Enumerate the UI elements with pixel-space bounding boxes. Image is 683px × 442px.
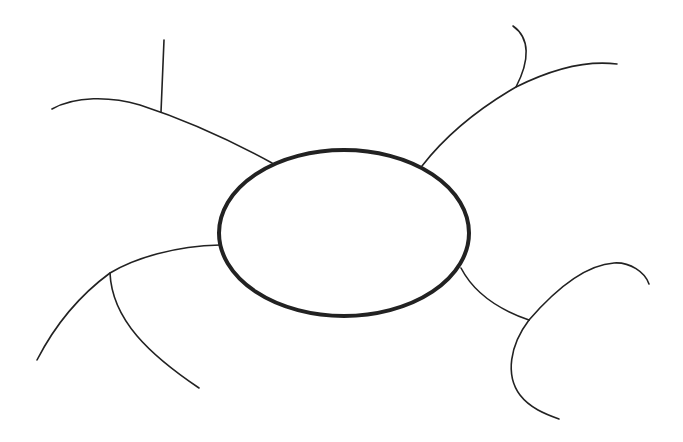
central-topic-node[interactable] bbox=[219, 150, 469, 316]
sub-branch-bottom-right-upper[interactable] bbox=[529, 263, 649, 320]
branches-layer bbox=[37, 26, 649, 419]
sub-branch-left-sub[interactable] bbox=[110, 273, 199, 388]
sub-branch-top-left-stem[interactable] bbox=[161, 40, 164, 112]
branch-left[interactable] bbox=[37, 245, 220, 360]
branch-top-left[interactable] bbox=[52, 99, 272, 163]
sub-branch-bottom-right-lower[interactable] bbox=[511, 320, 559, 419]
mind-map-canvas bbox=[0, 0, 683, 442]
branch-bottom-right[interactable] bbox=[461, 268, 529, 320]
sub-branch-top-right-hook[interactable] bbox=[513, 26, 526, 87]
